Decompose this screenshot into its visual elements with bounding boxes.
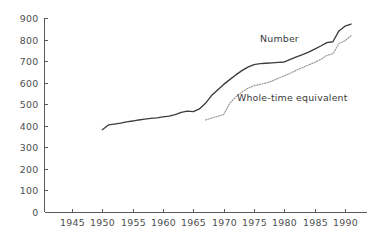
x-axis-ticks <box>73 209 346 213</box>
series-group <box>102 24 351 130</box>
series-line-number <box>102 24 351 130</box>
y-tick-label-900: 900 <box>20 13 39 24</box>
x-tick-label-1955: 1955 <box>121 217 146 228</box>
y-axis-tick-labels: 0100200300400500600700800900 <box>20 13 39 218</box>
y-axis: 0100200300400500600700800900 <box>20 13 48 218</box>
line-chart: 0100200300400500600700800900 19451950195… <box>0 0 381 242</box>
y-tick-label-600: 600 <box>20 78 39 89</box>
x-tick-label-1970: 1970 <box>212 217 237 228</box>
x-tick-label-1960: 1960 <box>151 217 176 228</box>
series-label-whole-time-equivalent: Whole-time equivalent <box>237 92 348 103</box>
series-line-whole-time-equivalent <box>205 36 351 120</box>
y-tick-label-500: 500 <box>20 99 39 110</box>
series-annotations: NumberWhole-time equivalent <box>237 33 348 103</box>
x-tick-label-1990: 1990 <box>333 217 358 228</box>
chart-container: 0100200300400500600700800900 19451950195… <box>0 0 381 242</box>
y-tick-label-0: 0 <box>32 207 38 218</box>
x-tick-label-1950: 1950 <box>90 217 115 228</box>
x-axis: 1945195019551960196519701975198019851990 <box>45 209 368 229</box>
y-axis-ticks <box>45 19 49 191</box>
y-tick-label-100: 100 <box>20 185 39 196</box>
x-tick-label-1945: 1945 <box>60 217 85 228</box>
y-tick-label-800: 800 <box>20 35 39 46</box>
x-tick-label-1985: 1985 <box>303 217 328 228</box>
series-label-number: Number <box>260 33 299 44</box>
y-tick-label-300: 300 <box>20 142 39 153</box>
x-axis-tick-labels: 1945195019551960196519701975198019851990 <box>60 217 358 228</box>
x-tick-label-1975: 1975 <box>242 217 267 228</box>
y-tick-label-200: 200 <box>20 164 39 175</box>
x-tick-label-1980: 1980 <box>272 217 297 228</box>
x-tick-label-1965: 1965 <box>181 217 206 228</box>
y-tick-label-400: 400 <box>20 121 39 132</box>
y-tick-label-700: 700 <box>20 56 39 67</box>
